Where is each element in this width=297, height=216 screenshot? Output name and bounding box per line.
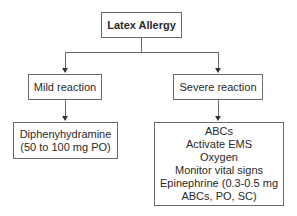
mild-treatment-line: Diphenyhydramine xyxy=(20,128,112,141)
arrow-down-icon xyxy=(62,68,68,73)
root-node-label: Latex Allergy xyxy=(107,19,176,32)
severe-reaction-label: Severe reaction xyxy=(179,81,256,94)
arrow-down-icon xyxy=(62,116,68,121)
mild-treatment-line: (50 to 100 mg PO) xyxy=(20,141,111,154)
node-severe-treatment: ABCs Activate EMS Oxygen Monitor vital s… xyxy=(154,122,284,206)
connector-mild-to-treatment xyxy=(65,99,66,116)
severe-treatment-line: ABCs xyxy=(205,125,233,138)
arrow-down-icon xyxy=(215,116,221,121)
severe-treatment-line: Oxygen xyxy=(200,151,238,164)
connector-horizontal xyxy=(65,52,219,53)
severe-treatment-line: Monitor vital signs xyxy=(175,164,263,177)
severe-treatment-line: Activate EMS xyxy=(186,138,252,151)
connector-severe-to-treatment xyxy=(218,99,219,116)
severe-treatment-line: Epinephrine (0.3-0.5 mg xyxy=(160,177,278,190)
arrow-down-icon xyxy=(215,68,221,73)
root-node-latex-allergy: Latex Allergy xyxy=(101,12,182,38)
severe-treatment-line: ABCs, PO, SC) xyxy=(181,190,256,203)
node-mild-treatment: Diphenyhydramine (50 to 100 mg PO) xyxy=(13,122,118,159)
connector-root-down xyxy=(141,37,142,52)
connector-to-severe xyxy=(218,52,219,68)
node-severe-reaction: Severe reaction xyxy=(173,74,263,100)
connector-to-mild xyxy=(65,52,66,68)
mild-reaction-label: Mild reaction xyxy=(34,81,96,94)
node-mild-reaction: Mild reaction xyxy=(28,74,102,100)
